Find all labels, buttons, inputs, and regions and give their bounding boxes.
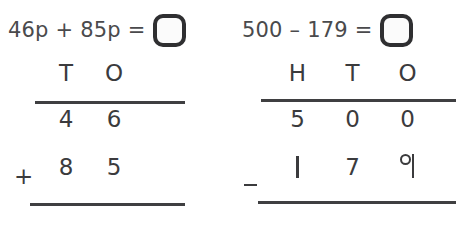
plus-sign: + xyxy=(14,165,33,188)
equation-text: 46p + 85p = xyxy=(8,18,146,42)
column-header-ones: O xyxy=(398,62,416,95)
digit-second-addend-ones: 5 xyxy=(107,143,122,191)
minus-sign xyxy=(244,167,257,190)
digit-nine-glyph xyxy=(400,154,415,180)
equation-line-addition: 46p + 85p = xyxy=(8,10,186,50)
problem-subtraction: 500 – 179 = H 5 T 0 7 O 0 xyxy=(228,0,456,231)
digit-subtrahend-tens: 7 xyxy=(345,143,360,191)
digit-one-glyph xyxy=(296,156,299,178)
column-header-tens: T xyxy=(59,62,73,95)
digit-first-addend-ones: 6 xyxy=(107,95,122,143)
problem-addition: 46p + 85p = T 4 8 O 6 5 + xyxy=(0,0,228,231)
equation-line-subtraction: 500 – 179 = xyxy=(242,10,413,50)
column-hundreds: H 5 xyxy=(270,62,325,231)
column-rule-bottom xyxy=(30,203,185,206)
column-ones: O 0 xyxy=(380,62,435,231)
digit-minuend-tens: 0 xyxy=(345,95,360,143)
digit-second-addend-tens: 8 xyxy=(59,143,74,191)
column-header-ones: O xyxy=(105,62,123,95)
answer-box[interactable] xyxy=(380,14,413,47)
digit-subtrahend-hundreds xyxy=(296,143,299,191)
column-rule-bottom xyxy=(258,201,456,204)
digit-first-addend-tens: 4 xyxy=(59,95,74,143)
column-tens: T 0 7 xyxy=(325,62,380,231)
answer-box[interactable] xyxy=(153,14,186,47)
digit-minuend-ones: 0 xyxy=(400,95,415,143)
column-header-hundreds: H xyxy=(289,62,306,95)
equation-text: 500 – 179 = xyxy=(242,18,373,42)
minus-glyph xyxy=(244,184,257,187)
column-sum-grid-subtraction: H 5 T 0 7 O 0 xyxy=(270,62,435,231)
digit-subtrahend-ones xyxy=(400,143,415,191)
digit-minuend-hundreds: 5 xyxy=(290,95,305,143)
column-header-tens: T xyxy=(345,62,359,95)
